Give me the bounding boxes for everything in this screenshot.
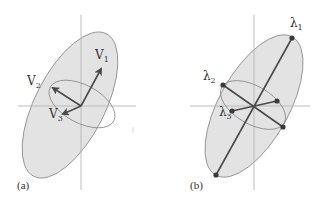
panel-a: V1 V2 V3 (a)	[2, 15, 137, 192]
caption-a: (a)	[17, 179, 30, 192]
outer-ellipse-a	[2, 18, 137, 192]
panel-b: λ1 λ2 λ3 (b)	[185, 15, 323, 192]
caption-b: (b)	[190, 179, 203, 192]
label-lambda2: λ2	[203, 69, 216, 85]
figure-canvas: V1 V2 V3 (a) λ1	[0, 0, 323, 204]
label-lambda1: λ1	[290, 16, 303, 32]
label-v2: V2	[26, 74, 41, 90]
